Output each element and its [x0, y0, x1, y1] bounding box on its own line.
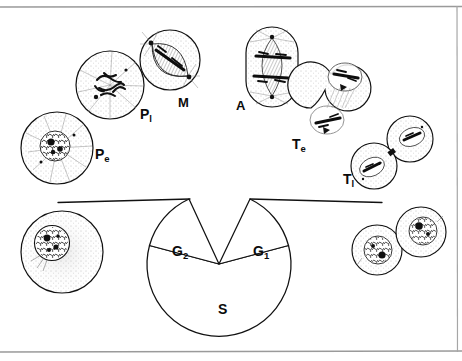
figure-canvas: [0, 0, 462, 361]
telophase-late-cells: [351, 116, 433, 189]
telophase-early-cell: [288, 62, 371, 134]
label-gap-two: G2: [172, 244, 188, 261]
label-telophase-late: Tl: [343, 172, 354, 189]
label-prophase-late: Pl: [140, 107, 152, 124]
prophase-late-cell: [76, 51, 144, 119]
label-telophase-early: Te: [292, 137, 306, 154]
label-prophase-early: Pe: [95, 147, 110, 164]
label-synthesis: S: [218, 302, 227, 316]
prophase-early-cell: [21, 112, 93, 184]
centriole-lower: [187, 75, 192, 80]
cell-cycle-figure: Pe Pl M A Te Tl G2 G1 S: [0, 0, 462, 361]
label-gap-one: G1: [253, 244, 269, 261]
label-anaphase: A: [236, 99, 245, 112]
label-metaphase: M: [178, 96, 189, 109]
pie-slice-s: [147, 246, 291, 337]
centriole-upper: [149, 41, 154, 46]
cycle-arc-lines: [58, 199, 382, 203]
metaphase-cell: [140, 30, 200, 90]
daughter-cells-g1: [352, 207, 446, 275]
interphase-cell: [21, 211, 103, 293]
